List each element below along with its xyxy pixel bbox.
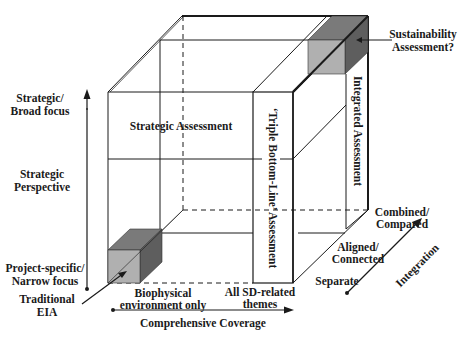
vertical-axis-title: Strategic <box>20 168 64 181</box>
traditional-eia-label: EIA <box>37 306 58 318</box>
horizontal-axis-title: Comprehensive Coverage <box>140 317 266 330</box>
triple-bottom-line-label: ‘Triple Bottom-Line’ Assessment <box>266 108 279 269</box>
integration-level-aligned: Connected <box>332 253 385 265</box>
horizontal-axis-right-label: themes <box>243 298 278 310</box>
horizontal-axis-right-label: All SD-related <box>225 286 296 298</box>
strategic-assessment-label: Strategic Assessment <box>130 120 233 133</box>
vertical-axis-top-label: Broad focus <box>11 105 70 117</box>
traditional-eia-label: Traditional <box>19 293 74 305</box>
vertical-axis-title: Perspective <box>14 181 70 194</box>
integration-level-combined: Combined/ <box>375 206 430 218</box>
arrow-right-icon <box>284 307 294 314</box>
sustainability-assessment-label: Sustainability <box>389 28 457 41</box>
integration-level-combined: Compared <box>376 218 429 231</box>
assessment-cube-diagram: Strategic/ Broad focus Strategic Perspec… <box>0 0 468 342</box>
axis-origin-dot <box>345 291 349 295</box>
integrated-assessment-label: Integrated Assessment <box>351 76 364 186</box>
depth-axis-title: Integration <box>393 241 442 290</box>
vertical-axis-top-label: Strategic/ <box>16 92 64 105</box>
axis-origin-dot <box>85 287 89 291</box>
horizontal-axis-left-label: environment only <box>120 299 207 312</box>
vertical-axis-bottom-label: Narrow focus <box>12 275 79 287</box>
integration-level-separate: Separate <box>315 275 358 288</box>
axis-origin-dot <box>111 308 115 312</box>
vertical-axis-bottom-label: Project-specific/ <box>6 262 86 275</box>
arrow-up-icon <box>84 89 91 99</box>
sustainability-assessment-label: Assessment? <box>392 41 454 53</box>
